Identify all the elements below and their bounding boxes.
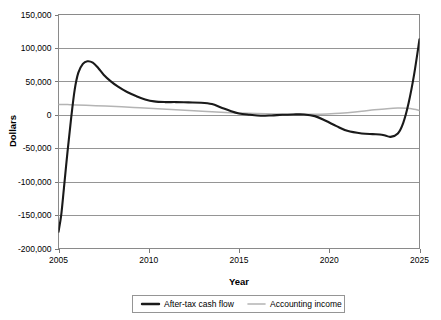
data-series [59,39,420,232]
x-tick-label: 2020 [320,255,339,265]
x-axis-tick-labels: 20052010201520202025 [49,255,429,265]
y-tick-label: -50,000 [23,143,52,153]
y-axis-title: Dollars [7,115,18,147]
gridlines [59,49,420,216]
y-tick-label: -150,000 [18,210,52,220]
x-axis-title: Year [229,276,249,287]
chart-legend: After-tax cash flow Accounting income [133,296,345,313]
plot-frame [59,15,420,249]
series-line-after-tax-cash-flow [59,39,420,232]
legend-label-after-tax-cash-flow: After-tax cash flow [164,299,235,309]
y-tick-label: 100,000 [21,43,52,53]
x-tick-label: 2005 [49,255,68,265]
legend-label-accounting-income: Accounting income [270,299,342,309]
chart-figure: 150,000100,00050,0000-50,000-100,000-150… [0,0,441,320]
x-tick-label: 2025 [410,255,429,265]
y-tick-label: 50,000 [26,77,52,87]
y-tick-label: -100,000 [18,177,52,187]
y-tick-label: 0 [47,110,52,120]
y-tick-label: 150,000 [21,10,52,20]
y-axis-tick-labels: 150,000100,00050,0000-50,000-100,000-150… [18,10,52,254]
y-tick-label: -200,000 [18,244,52,254]
x-tick-label: 2015 [230,255,249,265]
line-chart: 150,000100,00050,0000-50,000-100,000-150… [0,0,441,320]
x-tick-label: 2010 [139,255,158,265]
